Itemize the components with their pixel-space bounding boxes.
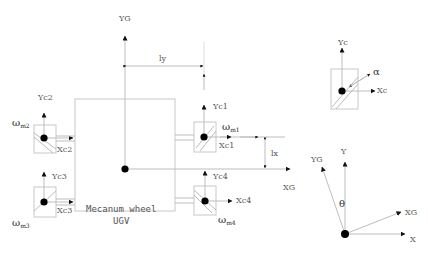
global-x-label: XG bbox=[283, 184, 295, 192]
wheel1-omega-label: ωm1 bbox=[222, 122, 240, 133]
wheel4-x-label: Xc4 bbox=[236, 197, 251, 205]
wheel3-omega-label: ωm3 bbox=[12, 218, 30, 229]
omega-symbol: ω bbox=[218, 214, 226, 225]
wheel1-y-label: Yc1 bbox=[213, 103, 228, 111]
diagram-graphics bbox=[0, 0, 428, 254]
global-y-label: YG bbox=[119, 15, 131, 23]
ugv-body-label: Mecanum wheel UGV bbox=[86, 203, 156, 227]
omega-subscript: m4 bbox=[226, 219, 236, 226]
wheel1-x-label: Xc1 bbox=[219, 142, 234, 150]
ugv-label-line1: Mecanum wheel bbox=[86, 203, 156, 215]
omega-subscript: m3 bbox=[20, 222, 30, 229]
detail-alpha-label: α bbox=[373, 67, 380, 77]
rotation-y-label: Y bbox=[341, 148, 346, 156]
rotation-x-label: X bbox=[410, 236, 416, 244]
detail-x-label: Xc bbox=[377, 87, 387, 95]
wheel-frame-detail bbox=[331, 48, 375, 109]
rotation-yg-label: YG bbox=[311, 156, 323, 164]
wheel2-y-label: Yc2 bbox=[38, 94, 53, 102]
center-dot bbox=[121, 165, 128, 172]
omega-symbol: ω bbox=[12, 217, 20, 228]
wheel4-omega-label: ωm4 bbox=[218, 215, 236, 226]
rotation-frame bbox=[322, 162, 405, 238]
wheel2-x-label: Xc2 bbox=[57, 146, 72, 154]
wheel2-omega-label: ωm2 bbox=[12, 118, 30, 129]
omega-subscript: m2 bbox=[20, 122, 30, 129]
mecanum-ugv-diagram: YG XG ly lx Mecanum wheel UGV Yc2 Xc2 ωm… bbox=[0, 0, 428, 254]
wheel4-y-label: Yc4 bbox=[213, 173, 228, 181]
omega-symbol: ω bbox=[12, 117, 20, 128]
wheel3-y-label: Yc3 bbox=[52, 173, 67, 181]
ly-label: ly bbox=[159, 55, 166, 63]
rotation-xg-label: XG bbox=[405, 209, 417, 217]
rotation-theta-label: θ bbox=[339, 199, 345, 209]
omega-subscript: m1 bbox=[230, 126, 240, 133]
wheel3-x-label: Xc3 bbox=[57, 207, 72, 215]
lx-label: lx bbox=[271, 150, 278, 158]
ugv-label-line2: UGV bbox=[86, 215, 156, 227]
detail-y-label: Yc bbox=[338, 39, 348, 47]
omega-symbol: ω bbox=[222, 121, 230, 132]
